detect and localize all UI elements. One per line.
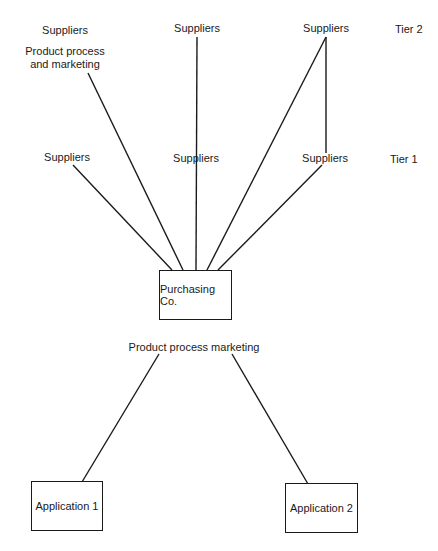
application-2-label: Application 2 [290, 502, 353, 514]
application-1-box: Application 1 [31, 481, 103, 531]
purchasing-co-label: Purchasing Co. [160, 283, 231, 307]
tier1-supplier-node: Suppliers [173, 152, 219, 165]
connector-line [82, 354, 159, 482]
connector-line [88, 73, 183, 270]
tier2-supplier-node: Suppliers [174, 22, 220, 35]
downstream-annotation: Product process marketing [129, 341, 260, 354]
tier2-label: Tier 2 [395, 23, 423, 36]
tier1-label: Tier 1 [390, 153, 418, 166]
purchasing-co-box: Purchasing Co. [159, 270, 232, 320]
tier1-supplier-node: Suppliers [44, 151, 90, 164]
tier2-supplier-node: Suppliers [42, 24, 88, 37]
product-process-marketing-annotation: Product process and marketing [25, 45, 104, 71]
application-1-label: Application 1 [36, 500, 99, 512]
tier2-supplier-node: Suppliers [303, 22, 349, 35]
tier1-supplier-node: Suppliers [302, 152, 348, 165]
connector-line [232, 354, 308, 484]
application-2-box: Application 2 [285, 483, 358, 533]
